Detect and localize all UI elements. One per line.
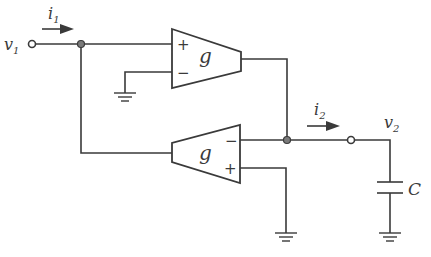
ground-icon xyxy=(114,93,136,101)
current-arrow-i1 xyxy=(42,24,74,34)
wire-feedback-left xyxy=(81,44,172,153)
wire-top-minus xyxy=(125,72,172,93)
circuit-diagram: i1 v1 + − g − + g xyxy=(0,0,431,257)
svg-text:g: g xyxy=(199,44,212,68)
svg-text:+: + xyxy=(177,36,190,54)
wire-bottom-plus xyxy=(240,168,286,233)
svg-text:−: − xyxy=(177,64,190,82)
amplifier-top: + − g xyxy=(172,29,241,88)
terminal-v1 xyxy=(29,41,36,48)
current-arrow-i2 xyxy=(307,121,340,131)
label-i2: i2 xyxy=(314,100,326,121)
svg-text:+: + xyxy=(224,160,237,178)
capacitor-icon xyxy=(377,182,403,193)
amplifier-bottom: − + g xyxy=(172,125,240,183)
label-i1: i1 xyxy=(48,4,60,25)
label-v1: v1 xyxy=(4,35,19,56)
ground-icon xyxy=(379,233,401,241)
wire-to-capacitor xyxy=(355,140,390,182)
label-capacitor: C xyxy=(408,179,421,199)
label-v2: v2 xyxy=(384,113,399,134)
node-junction-2 xyxy=(284,137,291,144)
terminal-v2 xyxy=(348,137,355,144)
svg-text:−: − xyxy=(225,132,238,150)
svg-text:g: g xyxy=(199,141,212,165)
ground-icon xyxy=(275,233,297,241)
wire-top-output xyxy=(241,59,287,140)
node-junction-1 xyxy=(78,41,85,48)
